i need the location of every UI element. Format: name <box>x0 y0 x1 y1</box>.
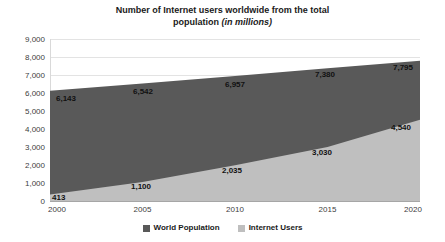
data-label-world-2015: 7,380 <box>315 71 335 79</box>
data-label-world-2010: 6,957 <box>225 81 245 89</box>
legend-item-world-population[interactable]: World Population <box>143 224 220 232</box>
x-axis-line <box>50 201 420 202</box>
y-tick-7000: 7,000 <box>25 72 45 80</box>
y-tick-8000: 8,000 <box>25 54 45 62</box>
data-label-world-2020: 7,795 <box>393 64 413 72</box>
chart-legend: World Population Internet Users <box>0 224 445 232</box>
y-tick-6000: 6,000 <box>25 90 45 98</box>
y-tick-9000: 9,000 <box>25 36 45 44</box>
legend-swatch-icon-world-population <box>143 225 150 232</box>
legend-label-internet-users: Internet Users <box>249 224 303 232</box>
data-label-internet-2010: 2,035 <box>222 167 242 175</box>
y-tick-0: 0 <box>41 198 45 206</box>
x-tick-2005: 2005 <box>134 206 152 214</box>
data-label-world-2000: 6,143 <box>56 95 76 103</box>
x-tick-2020: 2020 <box>404 206 422 214</box>
data-label-internet-2005: 1,100 <box>131 183 151 191</box>
area-series-group <box>50 39 420 202</box>
y-tick-3000: 3,000 <box>25 144 45 152</box>
chart-title-line1: Number of Internet users worldwide from … <box>116 5 330 15</box>
x-axis-tick-labels: 2000 2005 2010 2015 2020 <box>0 206 445 220</box>
chart-title: Number of Internet users worldwide from … <box>60 4 385 28</box>
legend-label-world-population: World Population <box>154 224 220 232</box>
x-tick-2010: 2010 <box>226 206 244 214</box>
plot-area <box>50 39 420 202</box>
data-label-internet-2015: 3,030 <box>312 149 332 157</box>
y-tick-5000: 5,000 <box>25 108 45 116</box>
chart-title-units: (in millions) <box>222 17 273 27</box>
y-tick-1000: 1,000 <box>25 180 45 188</box>
chart-title-line2: population <box>173 17 222 27</box>
y-tick-2000: 2,000 <box>25 162 45 170</box>
x-tick-2015: 2015 <box>319 206 337 214</box>
y-tick-4000: 4,000 <box>25 126 45 134</box>
legend-swatch-icon-internet-users <box>238 225 245 232</box>
data-label-internet-2020: 4,540 <box>391 124 411 132</box>
legend-item-internet-users[interactable]: Internet Users <box>238 224 303 232</box>
x-tick-2000: 2000 <box>48 206 66 214</box>
data-label-world-2005: 6,542 <box>133 88 153 96</box>
area-chart-svg <box>50 39 420 202</box>
data-label-internet-2000: 413 <box>52 194 65 202</box>
chart-container: Number of Internet users worldwide from … <box>0 0 445 242</box>
